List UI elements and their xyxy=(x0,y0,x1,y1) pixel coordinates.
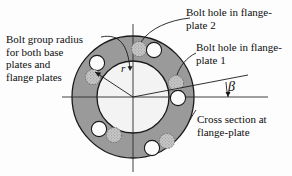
bolt-hole-flange-plate-1 xyxy=(146,42,161,57)
label-bolt-hole-flange-plate-1: Bolt hole in flange- plate 1 xyxy=(196,41,292,66)
bolt-hole-flange-plate-2 xyxy=(131,41,146,56)
label-bolt-hole-flange-plate-2: Bolt hole in flange- plate 2 xyxy=(186,6,290,31)
label-radius-symbol: r xyxy=(121,62,125,74)
bolt-hole-flange-plate-1 xyxy=(170,90,185,105)
label-angle-beta-symbol: β xyxy=(228,79,235,95)
figure-container: Bolt group radius for both base plates a… xyxy=(0,0,292,176)
bolt-hole-flange-plate-1 xyxy=(91,121,106,136)
label-cross-section-at-flange-plate: Cross section at flange-plate xyxy=(197,113,289,138)
bolt-hole-flange-plate-1 xyxy=(144,140,159,155)
bolt-hole-flange-plate-2 xyxy=(106,127,121,142)
bolt-hole-flange-plate-2 xyxy=(159,133,174,148)
label-bolt-group-radius: Bolt group radius for both base plates a… xyxy=(6,33,102,83)
